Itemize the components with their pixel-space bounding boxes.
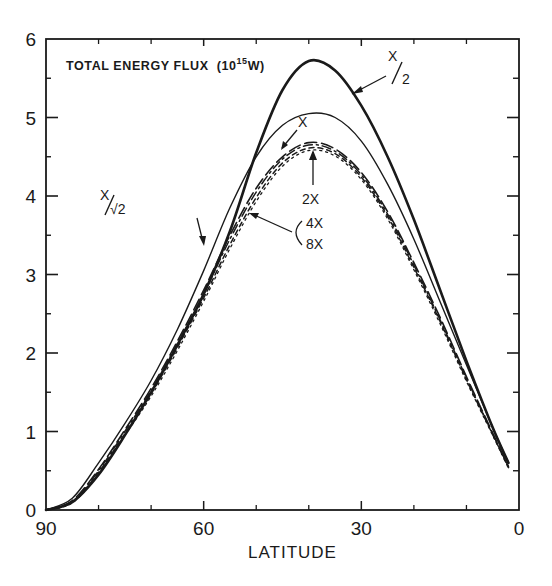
arrowhead-icon: [249, 213, 259, 219]
svg-text:2X: 2X: [302, 191, 320, 207]
y-tick-label: 6: [25, 29, 36, 50]
axes: [46, 39, 519, 510]
svg-text:X: X: [388, 48, 398, 64]
x-tick-label: 30: [351, 518, 372, 539]
annotation-2x: 2X: [302, 150, 320, 207]
annotation-4x-8x: 4X 8X: [249, 213, 324, 252]
y-tick-label: 1: [25, 422, 36, 443]
plot-frame: [46, 39, 519, 510]
ticks: [46, 39, 519, 510]
x-tick-label: 60: [193, 518, 214, 539]
chart-title: TOTAL ENERGY FLUX(1015W): [66, 56, 265, 73]
y-tick-label: 5: [25, 108, 36, 129]
svg-text:X: X: [100, 187, 110, 203]
series-line-x: [46, 142, 509, 510]
series-lines: [46, 60, 509, 510]
energy-flux-chart: TOTAL ENERGY FLUX(1015W) LATITUDE X 2 X …: [0, 0, 552, 586]
svg-text:X: X: [298, 114, 308, 130]
x-tick-label: 0: [514, 518, 525, 539]
y-tick-label: 4: [25, 186, 36, 207]
x-tick-label: 90: [35, 518, 56, 539]
annotation-x: X: [281, 114, 308, 150]
annotation-x-half: X 2: [352, 48, 410, 94]
y-tick-label: 2: [25, 343, 36, 364]
annotation-x-root2: X √2: [100, 187, 206, 246]
x-axis-title: LATITUDE: [248, 543, 337, 562]
svg-text:4X: 4X: [306, 215, 324, 231]
arrowhead-icon: [309, 150, 317, 160]
svg-text:√2: √2: [110, 201, 126, 217]
arrowhead-icon: [352, 86, 363, 94]
y-tick-label: 0: [25, 500, 36, 521]
svg-text:8X: 8X: [306, 236, 324, 252]
svg-text:2: 2: [402, 71, 410, 87]
series-line-x2: [46, 60, 509, 510]
series-line-2x: [46, 145, 509, 510]
arrowhead-icon: [199, 236, 206, 246]
y-tick-label: 3: [25, 265, 36, 286]
